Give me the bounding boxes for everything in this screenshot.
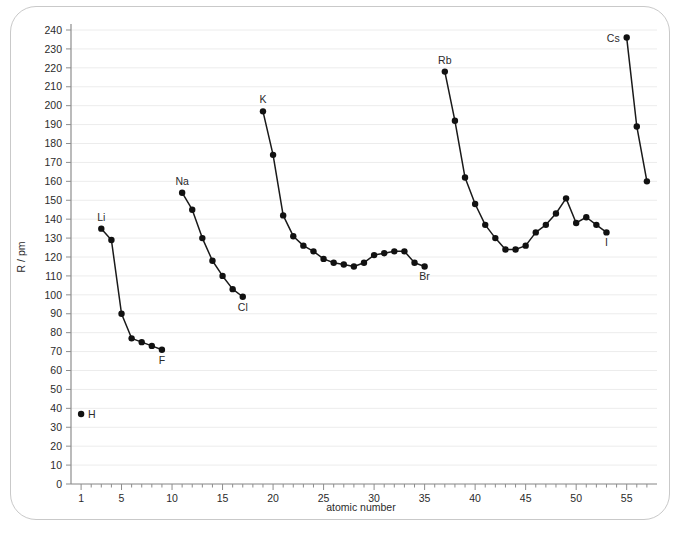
- data-point: [634, 123, 640, 129]
- data-point: [260, 108, 266, 114]
- y-tick-label-150: 150: [44, 194, 62, 206]
- y-tick-label-110: 110: [45, 270, 62, 282]
- point-labels: HLiFNaClKBrRbICs: [88, 32, 620, 420]
- x-axis-title: atomic number: [326, 501, 396, 513]
- data-point: [219, 273, 225, 279]
- data-point: [583, 214, 589, 220]
- data-point: [563, 195, 569, 201]
- y-tick-label-0: 0: [56, 478, 62, 490]
- data-point: [603, 229, 609, 235]
- y-tick-label-160: 160: [44, 175, 62, 187]
- series-line-period-2: [101, 229, 162, 350]
- y-tick-label-60: 60: [50, 364, 62, 376]
- data-point: [209, 258, 215, 264]
- data-point: [573, 220, 579, 226]
- data-point: [452, 118, 458, 124]
- data-point: [290, 233, 296, 239]
- y-tick-label-210: 210: [44, 80, 62, 92]
- y-tick-label-80: 80: [50, 326, 62, 338]
- data-point: [149, 343, 155, 349]
- data-point: [502, 246, 508, 252]
- data-point: [98, 225, 104, 231]
- y-tick-label-130: 130: [44, 232, 62, 244]
- y-axis: 0102030405060708090100110120130140150160…: [44, 24, 71, 490]
- y-tick-label-90: 90: [50, 307, 62, 319]
- data-point: [189, 207, 195, 213]
- y-axis-title: R / pm: [15, 241, 27, 272]
- data-point: [330, 259, 336, 265]
- gridlines: [71, 30, 657, 484]
- y-tick-label-40: 40: [50, 402, 62, 414]
- point-label-Cs: Cs: [607, 32, 620, 44]
- series-period-4: [260, 108, 428, 270]
- point-label-H: H: [88, 408, 96, 420]
- series-line-period-4: [263, 111, 425, 266]
- series-period-3: [179, 189, 246, 299]
- y-tick-label-20: 20: [50, 440, 62, 452]
- data-point: [381, 250, 387, 256]
- data-point: [320, 256, 326, 262]
- data-point: [229, 286, 235, 292]
- data-point: [310, 248, 316, 254]
- data-point: [270, 152, 276, 158]
- series-period-5: [442, 68, 610, 252]
- x-tick-label-5: 5: [119, 492, 125, 504]
- data-point: [512, 246, 518, 252]
- data-point: [482, 222, 488, 228]
- point-label-Rb: Rb: [438, 54, 452, 66]
- y-tick-label-190: 190: [44, 118, 62, 130]
- data-point: [179, 189, 185, 195]
- data-point: [623, 34, 629, 40]
- x-tick-label-20: 20: [267, 492, 279, 504]
- y-tick-label-180: 180: [44, 137, 62, 149]
- figure-frame: 0102030405060708090100110120130140150160…: [10, 6, 670, 520]
- y-tick-label-120: 120: [44, 251, 62, 263]
- data-point: [341, 261, 347, 267]
- point-label-Na: Na: [175, 175, 189, 187]
- point-label-Br: Br: [419, 270, 430, 282]
- y-tick-label-230: 230: [44, 43, 62, 55]
- data-point: [553, 210, 559, 216]
- y-tick-label-240: 240: [44, 24, 62, 36]
- data-point: [462, 174, 468, 180]
- y-tick-label-200: 200: [44, 99, 62, 111]
- data-point: [300, 242, 306, 248]
- y-tick-label-10: 10: [50, 459, 62, 471]
- point-label-F: F: [159, 354, 165, 366]
- data-point: [108, 237, 114, 243]
- data-point: [421, 263, 427, 269]
- y-tick-label-70: 70: [50, 345, 62, 357]
- series-line-period-6: [627, 38, 647, 182]
- y-tick-label-170: 170: [44, 156, 62, 168]
- data-point: [361, 259, 367, 265]
- data-point: [199, 235, 205, 241]
- series-period-1: [78, 411, 84, 417]
- data-point: [533, 229, 539, 235]
- point-label-I: I: [605, 236, 608, 248]
- y-tick-label-100: 100: [44, 289, 62, 301]
- data-point: [351, 263, 357, 269]
- data-point: [159, 346, 165, 352]
- data-point: [139, 339, 145, 345]
- data-point: [128, 335, 134, 341]
- x-tick-label-10: 10: [166, 492, 178, 504]
- data-point: [522, 242, 528, 248]
- data-point: [472, 201, 478, 207]
- series-line-period-5: [445, 72, 607, 250]
- x-tick-label-55: 55: [621, 492, 633, 504]
- data-point: [78, 411, 84, 417]
- point-label-Cl: Cl: [238, 301, 248, 313]
- data-point: [401, 248, 407, 254]
- series-period-2: [98, 225, 165, 352]
- x-tick-label-15: 15: [217, 492, 229, 504]
- y-tick-label-220: 220: [44, 62, 62, 74]
- data-point: [411, 259, 417, 265]
- data-point: [593, 222, 599, 228]
- y-tick-label-30: 30: [50, 421, 62, 433]
- radius-vs-atomic-number-chart: 0102030405060708090100110120130140150160…: [11, 7, 671, 521]
- data-point: [391, 248, 397, 254]
- data-point: [492, 235, 498, 241]
- y-tick-label-50: 50: [50, 383, 62, 395]
- data-point: [280, 212, 286, 218]
- data-point: [240, 294, 246, 300]
